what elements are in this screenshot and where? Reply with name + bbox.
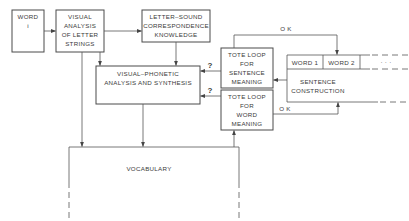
ok-label-top: O K <box>280 25 292 32</box>
slot-word-1: WORD 1 <box>292 59 319 66</box>
tote-sentence-label-line-2: FOR <box>240 60 254 67</box>
letter-sound-label-line-2: CORRESPONDENCE <box>143 22 209 29</box>
letter-sound-label-line-1: LETTER–SOUND <box>149 13 202 20</box>
vocabulary-label: VOCABULARY <box>126 165 171 172</box>
word-i-label-line-1: WORD <box>18 13 39 20</box>
tote-word-label-line-1: TOTE LOOP <box>228 93 266 100</box>
word-i-label-line-2: i <box>27 22 29 29</box>
node-sentence-construction: WORD 1 WORD 2 · · · SENTENCE CONSTRUCTIO… <box>287 55 409 102</box>
node-letter-sound: LETTER–SOUND CORRESPONDENCE KNOWLEDGE <box>142 10 210 42</box>
node-tote-word: TOTE LOOP FOR WORD MEANING <box>221 90 273 130</box>
tote-word-label-line-2: FOR <box>240 102 254 109</box>
tote-word-label-line-4: MEANING <box>232 120 263 127</box>
node-word-i: WORD i <box>12 10 44 52</box>
tote-sentence-label-line-4: MEANING <box>232 78 263 85</box>
ok-label-bottom: O K <box>279 105 291 112</box>
question-label-word: ? <box>208 86 213 95</box>
tote-sentence-label-line-3: SENTENCE <box>229 69 265 76</box>
node-visual-phonetic: VISUAL–PHONETIC ANALYSIS AND SYNTHESIS <box>96 66 200 104</box>
slot-ellipsis: · · · <box>380 58 391 65</box>
tote-word-label-line-3: WORD <box>237 111 258 118</box>
reading-process-diagram: WORD i VISUAL ANALYSIS OF LETTER STRINGS… <box>0 0 409 221</box>
question-label-sentence: ? <box>208 61 213 70</box>
sentence-construction-label-line-2: CONSTRUCTION <box>291 87 344 94</box>
sentence-construction-label-line-1: SENTENCE <box>300 78 336 85</box>
letter-sound-label-line-3: KNOWLEDGE <box>155 31 198 38</box>
node-vocabulary: VOCABULARY <box>69 147 239 221</box>
visual-analysis-label-line-2: ANALYSIS <box>64 22 96 29</box>
node-tote-sentence: TOTE LOOP FOR SENTENCE MEANING <box>221 48 273 88</box>
visual-phonetic-label-line-2: ANALYSIS AND SYNTHESIS <box>104 79 192 86</box>
tote-sentence-label-line-1: TOTE LOOP <box>228 51 266 58</box>
visual-phonetic-label-line-1: VISUAL–PHONETIC <box>117 70 179 77</box>
visual-analysis-label-line-3: OF LETTER <box>62 31 99 38</box>
node-visual-analysis: VISUAL ANALYSIS OF LETTER STRINGS <box>56 10 104 52</box>
slot-word-2: WORD 2 <box>328 59 355 66</box>
visual-analysis-label-line-4: STRINGS <box>65 40 95 47</box>
visual-analysis-label-line-1: VISUAL <box>68 13 92 20</box>
